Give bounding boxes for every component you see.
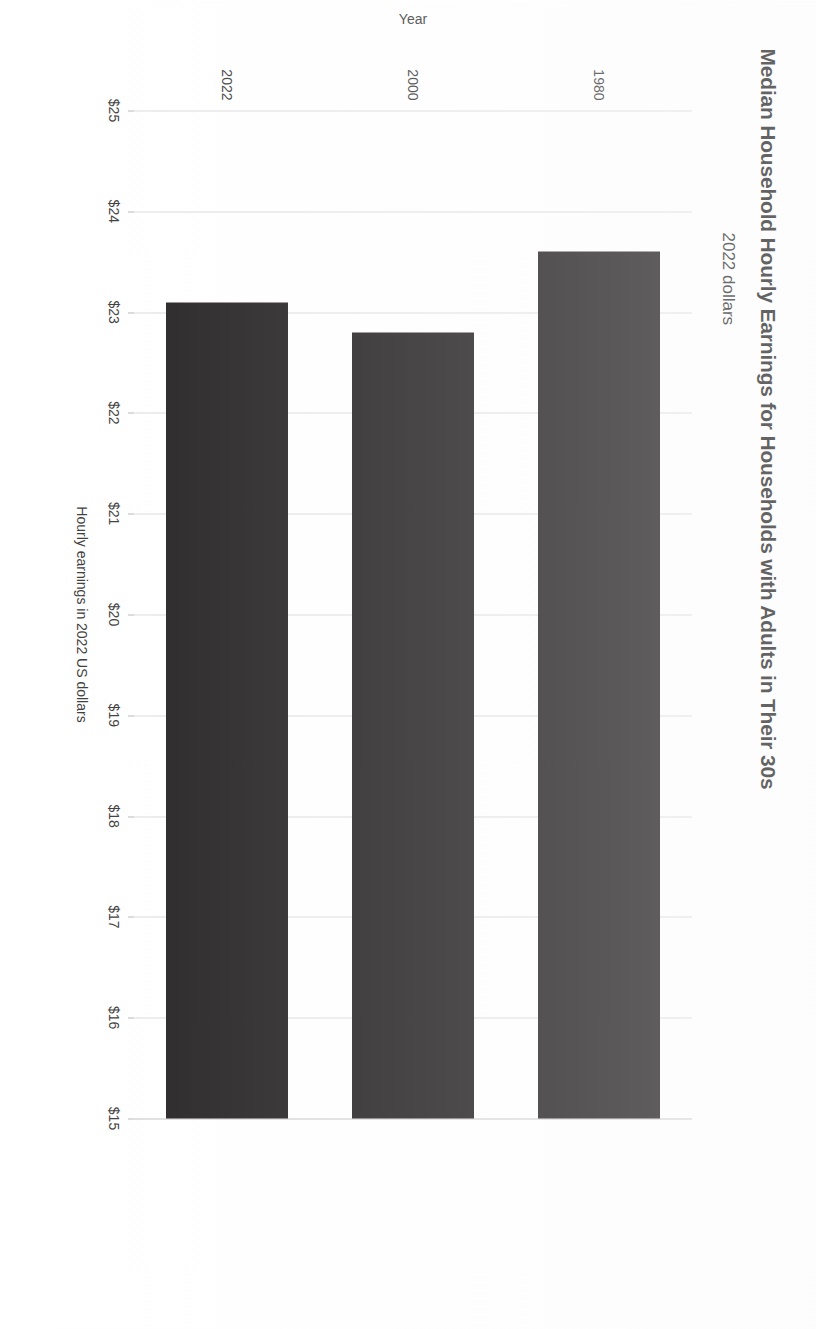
value-tick-mark	[128, 412, 134, 413]
bar	[538, 251, 661, 1118]
value-tick-mark	[128, 513, 134, 514]
value-tick-label: $17	[106, 905, 122, 928]
value-tick-mark	[128, 816, 134, 817]
bar	[352, 332, 475, 1118]
category-tick-label: 1980	[591, 0, 607, 100]
value-axis-title: Hourly earnings in 2022 US dollars	[74, 506, 90, 722]
value-tick-mark	[128, 110, 134, 111]
value-tick-label: $24	[106, 199, 122, 222]
category-axis-title: Year	[399, 10, 427, 26]
value-tick-label: $22	[106, 401, 122, 424]
value-tick-label: $16	[106, 1006, 122, 1029]
chart-title: Median Household Hourly Earnings for Hou…	[756, 48, 780, 789]
value-tick-label: $21	[106, 502, 122, 525]
value-tick-label: $19	[106, 703, 122, 726]
plot-area	[134, 110, 692, 1118]
gridline	[134, 110, 692, 111]
value-tick-label: $23	[106, 300, 122, 323]
value-tick-mark	[128, 715, 134, 716]
chart-stage: Median Household Hourly Earnings for Hou…	[0, 0, 816, 1329]
chart-subtitle: 2022 dollars	[718, 232, 738, 325]
value-tick-label: $20	[106, 602, 122, 625]
value-tick-mark	[128, 211, 134, 212]
value-tick-mark	[128, 1017, 134, 1018]
value-tick-label: $18	[106, 804, 122, 827]
value-tick-mark	[128, 916, 134, 917]
value-tick-label: $25	[106, 98, 122, 121]
value-tick-mark	[128, 312, 134, 313]
value-tick-mark	[128, 1118, 134, 1119]
gridline	[134, 211, 692, 212]
value-tick-mark	[128, 614, 134, 615]
category-tick-label: 2022	[219, 0, 235, 100]
bar	[166, 302, 289, 1118]
value-tick-label: $15	[106, 1106, 122, 1129]
scanned-page: Median Household Hourly Earnings for Hou…	[0, 0, 816, 1329]
